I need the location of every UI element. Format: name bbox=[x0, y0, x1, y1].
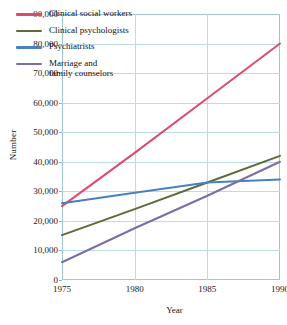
y-tick-label: 10,000 bbox=[33, 245, 58, 255]
legend-item: Psychiatrists bbox=[16, 41, 206, 52]
x-tick-label: 1990 bbox=[271, 284, 287, 294]
series-line bbox=[62, 162, 280, 262]
legend-color-swatch bbox=[16, 13, 42, 16]
x-tick-label: 1975 bbox=[53, 284, 71, 294]
x-tick-label: 1985 bbox=[198, 284, 216, 294]
legend-label: Marriage and family counselors bbox=[49, 58, 113, 79]
chart-figure: Number Year 010,00020,00030,00040,00050,… bbox=[0, 0, 287, 325]
legend-item: Clinical social workers bbox=[16, 8, 206, 19]
legend-label: Clinical social workers bbox=[49, 8, 132, 19]
x-axis-title: Year bbox=[62, 305, 287, 315]
legend-label: Psychiatrists bbox=[49, 41, 95, 52]
legend-label: Clinical psychologists bbox=[49, 25, 129, 36]
y-tick-label: 60,000 bbox=[33, 98, 58, 108]
y-tick-label: 20,000 bbox=[33, 216, 58, 226]
y-tick-mark bbox=[59, 280, 62, 281]
y-tick-label: 50,000 bbox=[33, 127, 58, 137]
y-tick-label: 30,000 bbox=[33, 186, 58, 196]
legend-item: Clinical psychologists bbox=[16, 25, 206, 36]
chart-legend: Clinical social workersClinical psycholo… bbox=[16, 8, 206, 85]
x-tick-label: 1980 bbox=[126, 284, 144, 294]
legend-color-swatch bbox=[16, 30, 42, 33]
y-axis-title: Number bbox=[8, 105, 18, 185]
y-tick-label: 40,000 bbox=[33, 157, 58, 167]
legend-color-swatch bbox=[16, 46, 42, 49]
legend-item: Marriage and family counselors bbox=[16, 58, 206, 79]
series-line bbox=[62, 156, 280, 235]
legend-color-swatch bbox=[16, 63, 42, 66]
